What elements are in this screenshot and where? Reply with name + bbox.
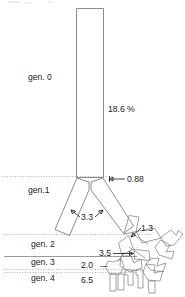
top-edge-artifact bbox=[8, 1, 53, 4]
dimension-label-gen1-diameter: 0.88 bbox=[127, 174, 144, 184]
generation-label-gen-2: gen. 2 bbox=[31, 239, 55, 249]
airway-branching-figure: gen. 0 gen.1 gen. 2 gen. 3 gen. 4 18.6 %… bbox=[0, 0, 185, 297]
dimension-label-group: 18.6 % 0.88 3.3 1.3 3.5 2.0 6.5 bbox=[81, 104, 153, 285]
branching-tree-svg: gen. 0 gen.1 gen. 2 gen. 3 gen. 4 18.6 %… bbox=[0, 0, 185, 297]
dimension-label-trunk-diameter: 18.6 % bbox=[108, 104, 135, 114]
dimension-label-gen3-diameter: 3.5 bbox=[99, 248, 111, 258]
dimension-label-gen2b-diameter: 1.3 bbox=[141, 223, 153, 233]
generation-divider-lines bbox=[2, 177, 151, 273]
generation-0-trunk bbox=[77, 9, 104, 178]
dimension-label-gen3b-diameter: 2.0 bbox=[81, 260, 93, 270]
dimension-label-gen4-diameter: 6.5 bbox=[81, 275, 93, 285]
generation-label-gen-4: gen. 4 bbox=[31, 273, 55, 283]
dimension-label-gen2-diameter: 3.3 bbox=[81, 212, 93, 222]
generation-label-gen-1: gen.1 bbox=[28, 185, 50, 195]
generation-label-gen-3: gen. 3 bbox=[31, 257, 55, 267]
generation-label-group: gen. 0 gen.1 gen. 2 gen. 3 gen. 4 bbox=[28, 72, 55, 283]
generation-label-gen-0: gen. 0 bbox=[28, 72, 52, 82]
generation-1-branches bbox=[55, 178, 134, 236]
generation-3-4-clusters bbox=[105, 230, 183, 293]
